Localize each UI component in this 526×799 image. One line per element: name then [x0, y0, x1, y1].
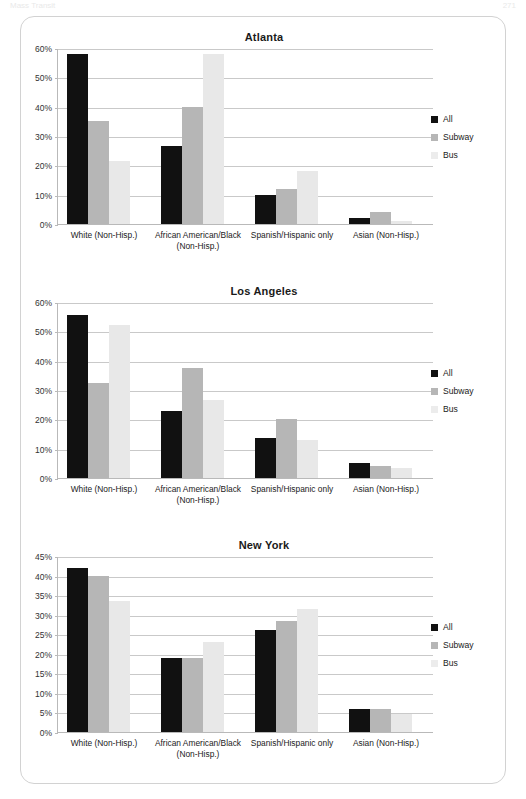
axis-tick-mark — [55, 479, 58, 480]
bars — [152, 303, 246, 478]
bar-bus — [391, 221, 412, 224]
y-axis-tick-label: 20% — [35, 161, 52, 171]
y-axis-tick-label: 45% — [35, 552, 52, 562]
bar-group — [152, 303, 246, 478]
legend-item-all: All — [431, 110, 495, 128]
legend-label: Subway — [443, 132, 474, 142]
bar-subway — [88, 121, 109, 224]
bar-subway — [370, 466, 391, 478]
bar-subway — [276, 189, 297, 224]
legend-item-subway: Subway — [431, 636, 495, 654]
bar-all — [255, 438, 276, 478]
chart-los-angeles: Los Angeles0%10%20%30%40%50%60%White (No… — [21, 285, 507, 535]
legend-label: Subway — [443, 386, 474, 396]
chart-new-york: New York0%5%10%15%20%25%30%35%40%45%Whit… — [21, 539, 507, 789]
bar-subway — [370, 709, 391, 732]
bar-group — [246, 557, 340, 732]
x-axis-tick-label: White (Non-Hisp.) — [57, 227, 151, 251]
bar-groups — [58, 303, 433, 478]
y-axis-tick-label: 10% — [35, 191, 52, 201]
legend-label: Bus — [443, 404, 458, 414]
y-axis-tick-label: 10% — [35, 445, 52, 455]
axis-tick-mark — [55, 733, 58, 734]
bars — [152, 557, 246, 732]
y-axis: 0%10%20%30%40%50%60% — [21, 49, 55, 225]
y-axis-tick-label: 20% — [35, 415, 52, 425]
bars — [339, 49, 433, 224]
y-axis-tick-label: 50% — [35, 73, 52, 83]
y-axis-tick-label: 0% — [40, 474, 52, 484]
legend-swatch-subway-icon — [431, 134, 438, 141]
bar-group — [246, 303, 340, 478]
bars — [339, 557, 433, 732]
legend-label: All — [443, 114, 453, 124]
legend-item-subway: Subway — [431, 382, 495, 400]
x-axis-tick-label: Asian (Non-Hisp.) — [339, 481, 433, 505]
x-axis-tick-label: White (Non-Hisp.) — [57, 735, 151, 759]
y-axis-tick-label: 60% — [35, 298, 52, 308]
y-axis-tick-label: 40% — [35, 103, 52, 113]
x-axis-labels: White (Non-Hisp.)African American/Black … — [57, 227, 433, 251]
bar-group — [58, 557, 152, 732]
bar-all — [161, 658, 182, 732]
bars — [246, 303, 340, 478]
bars — [58, 557, 152, 732]
bar-bus — [391, 468, 412, 478]
legend-item-all: All — [431, 618, 495, 636]
bar-all — [349, 218, 370, 224]
bar-subway — [88, 383, 109, 478]
page-header: Mass Transit 271 — [0, 0, 526, 12]
bar-all — [161, 411, 182, 478]
chart-title: New York — [21, 539, 507, 551]
bar-bus — [297, 440, 318, 478]
y-axis-tick-label: 40% — [35, 572, 52, 582]
bar-bus — [109, 325, 130, 478]
legend-label: Subway — [443, 640, 474, 650]
bar-group — [58, 303, 152, 478]
bar-groups — [58, 49, 433, 224]
x-axis-tick-label: Asian (Non-Hisp.) — [339, 227, 433, 251]
plot-area: 0%10%20%30%40%50%60%White (Non-Hisp.)Afr… — [21, 303, 507, 479]
plot-canvas — [57, 49, 433, 225]
legend-label: All — [443, 622, 453, 632]
x-axis-tick-label: Spanish/Hispanic only — [245, 735, 339, 759]
x-axis-labels: White (Non-Hisp.)African American/Black … — [57, 481, 433, 505]
legend-item-bus: Bus — [431, 654, 495, 672]
legend-swatch-bus-icon — [431, 406, 438, 413]
chart-legend: AllSubwayBus — [431, 364, 495, 418]
y-axis-tick-label: 15% — [35, 669, 52, 679]
y-axis-tick-label: 30% — [35, 386, 52, 396]
x-axis-tick-label: African American/Black (Non-Hisp.) — [151, 735, 245, 759]
bar-subway — [276, 419, 297, 478]
bars — [246, 49, 340, 224]
legend-item-subway: Subway — [431, 128, 495, 146]
bar-groups — [58, 557, 433, 732]
legend-swatch-bus-icon — [431, 152, 438, 159]
charts-card: Atlanta0%10%20%30%40%50%60%White (Non-Hi… — [20, 16, 506, 784]
axis-tick-mark — [55, 225, 58, 226]
legend-item-bus: Bus — [431, 146, 495, 164]
chart-atlanta: Atlanta0%10%20%30%40%50%60%White (Non-Hi… — [21, 31, 507, 281]
x-axis-tick-label: Spanish/Hispanic only — [245, 227, 339, 251]
bar-all — [67, 568, 88, 732]
bar-bus — [297, 609, 318, 732]
y-axis: 0%5%10%15%20%25%30%35%40%45% — [21, 557, 55, 733]
bar-bus — [203, 54, 224, 224]
legend-swatch-subway-icon — [431, 388, 438, 395]
plot-area: 0%5%10%15%20%25%30%35%40%45%White (Non-H… — [21, 557, 507, 733]
legend-item-all: All — [431, 364, 495, 382]
bar-all — [349, 709, 370, 732]
y-axis-tick-label: 35% — [35, 591, 52, 601]
bar-group — [152, 557, 246, 732]
y-axis-tick-label: 0% — [40, 220, 52, 230]
x-axis-tick-label: Asian (Non-Hisp.) — [339, 735, 433, 759]
x-axis-tick-label: African American/Black (Non-Hisp.) — [151, 481, 245, 505]
bar-subway — [276, 621, 297, 732]
bar-subway — [88, 576, 109, 732]
plot-canvas — [57, 303, 433, 479]
bar-all — [161, 146, 182, 224]
chart-legend: AllSubwayBus — [431, 618, 495, 672]
bars — [246, 557, 340, 732]
bar-group — [58, 49, 152, 224]
y-axis-tick-label: 20% — [35, 650, 52, 660]
